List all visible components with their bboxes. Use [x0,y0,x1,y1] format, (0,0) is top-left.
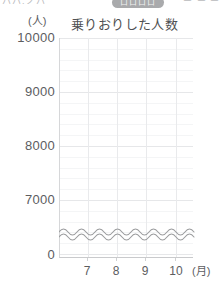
line-chart: (人) 乗りおりした人数 10000 9000 8000 7000 0 7 8 [0,0,222,290]
x-tick-label-7: 7 [84,264,91,278]
x-axis-unit-label: (月) [192,264,210,278]
vertical-gridlines [60,38,193,257]
y-axis-unit-label: (人) [28,15,46,27]
x-tick-label-9: 9 [142,264,149,278]
y-tick-label-0: 0 [3,248,55,261]
y-tick-label-8000: 8000 [3,139,55,152]
y-tick-label-7000: 7000 [3,193,55,206]
x-tick-label-8: 8 [113,264,120,278]
y-tick-label-10000: 10000 [3,31,55,44]
chart-title: 乗りおりした人数 [71,17,178,32]
plot-area [59,38,193,258]
x-axis-labels: 7 8 9 10 (月) [0,264,222,282]
y-tick-label-9000: 9000 [3,85,55,98]
x-tick-label-10: 10 [169,264,182,278]
